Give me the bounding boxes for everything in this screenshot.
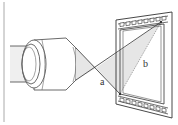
diagram-svg (0, 0, 178, 125)
light-cone-front (76, 48, 96, 80)
light-cone-rear (96, 22, 161, 94)
lens-icon (10, 38, 79, 90)
diagram: a b (0, 0, 178, 125)
label-a: a (100, 77, 104, 87)
label-b: b (143, 59, 148, 69)
